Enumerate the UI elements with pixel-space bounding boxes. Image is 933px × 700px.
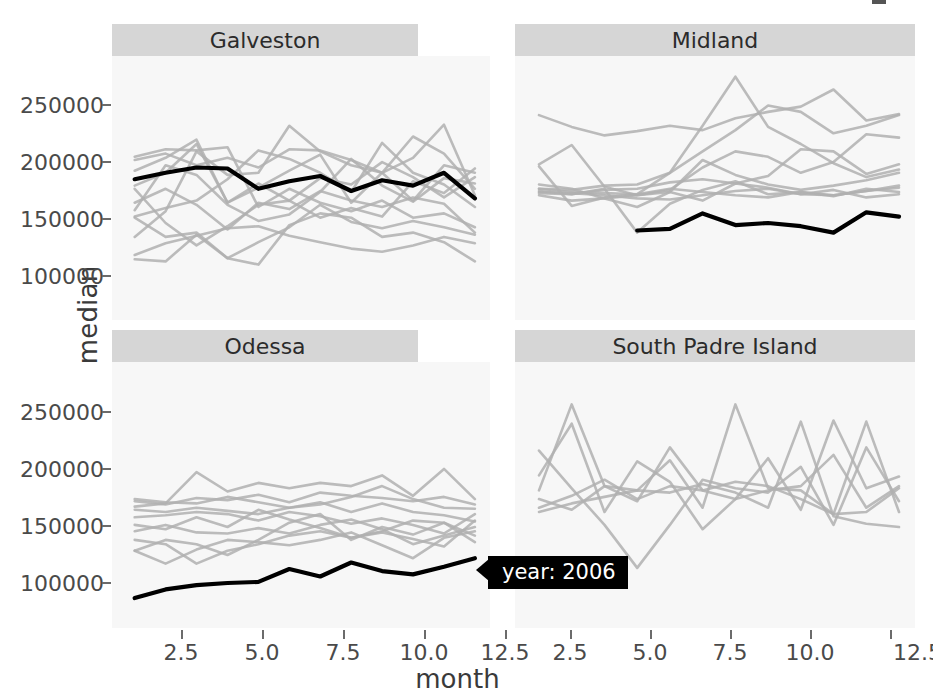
x-tick-label: 2.5 — [540, 640, 600, 665]
x-tick-label: 12.5 — [475, 640, 535, 665]
series-line — [135, 205, 475, 258]
series-line — [135, 226, 475, 255]
facet-lines-galveston — [135, 125, 475, 265]
x-tick-mark — [730, 630, 732, 639]
x-tick-label: 7.5 — [313, 640, 373, 665]
x-tick-mark — [424, 630, 426, 639]
x-tick-mark — [343, 630, 345, 639]
series-line — [135, 531, 475, 563]
series-line — [539, 447, 899, 568]
series-line — [539, 90, 899, 136]
x-tick-label: 10.0 — [394, 640, 454, 665]
x-tick-mark — [570, 630, 572, 639]
facet-lines-odessa — [135, 469, 475, 598]
x-tick-label: 5.0 — [232, 640, 292, 665]
highlight-line-2006[interactable] — [637, 212, 899, 232]
x-tick-label: 7.5 — [700, 640, 760, 665]
x-tick-label: 5.0 — [620, 640, 680, 665]
x-tick-label: 12.5 — [893, 640, 933, 665]
highlight-line-2006[interactable] — [135, 558, 475, 598]
facet-lines-south-padre-island — [539, 404, 899, 568]
tooltip-year-2006[interactable]: year: 2006 — [488, 556, 628, 589]
facet-lines-midland — [539, 77, 899, 233]
x-tick-mark — [810, 630, 812, 639]
x-tick-mark — [181, 630, 183, 639]
x-tick-label: 2.5 — [151, 640, 211, 665]
x-tick-mark — [650, 630, 652, 639]
cropped-glyph-mark — [872, 0, 886, 4]
x-tick-mark — [505, 630, 507, 639]
x-tick-label: 10.0 — [780, 640, 840, 665]
x-tick-mark — [262, 630, 264, 639]
x-tick-mark — [890, 630, 892, 639]
